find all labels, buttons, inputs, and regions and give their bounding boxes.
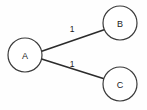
graph-diagram-canvas: A B C 1 1 — [0, 0, 147, 110]
edge-a-c-weight-label: 1 — [70, 59, 75, 69]
node-b-label: B — [117, 19, 123, 29]
node-a-label: A — [22, 51, 28, 61]
edge-a-b-weight-label: 1 — [70, 24, 75, 34]
node-c-label: C — [117, 80, 124, 90]
graph-diagram: A B C 1 1 — [0, 0, 147, 110]
